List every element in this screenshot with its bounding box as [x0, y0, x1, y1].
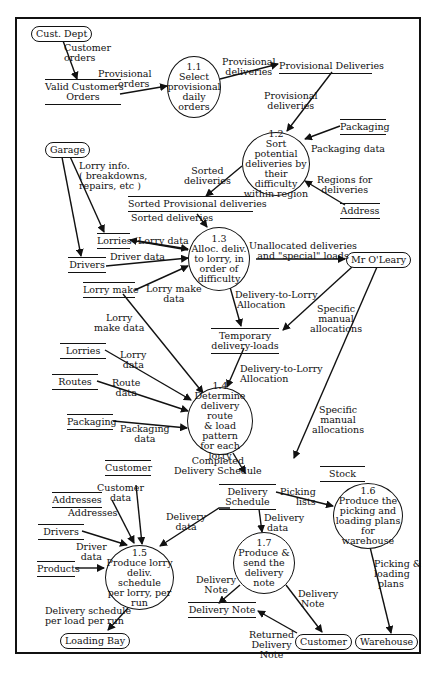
store-lorries-2[interactable]: Lorries	[60, 343, 106, 359]
flow-label-driver-data-1: Driver data	[110, 252, 165, 262]
store-delivery-schedule[interactable]: Delivery Schedule	[219, 484, 276, 510]
store-packaging-2[interactable]: Packaging	[67, 414, 113, 430]
flow-label-picking-lists: Pickinglists	[280, 487, 316, 507]
flow-label-provisional-orders: Provisionalorders	[98, 69, 152, 89]
process-label: per lorry, per	[108, 588, 172, 598]
external-garage[interactable]: Garage	[45, 142, 90, 158]
store-provisional-deliveries[interactable]: Provisional Deliveries	[279, 59, 372, 74]
store-packaging-1[interactable]: Packaging	[340, 119, 386, 135]
process-label: 1.5	[132, 548, 147, 558]
process-label: Produce lorry	[106, 558, 172, 568]
store-routes[interactable]: Routes	[52, 374, 98, 390]
flow-label-addresses: Addresses	[68, 508, 117, 518]
process-1-6[interactable]: 1.6 Produce the picking and loading plan…	[333, 483, 403, 549]
process-1-1[interactable]: 1.1 Select provisional daily orders	[167, 56, 221, 118]
store-sorted-provisional-deliveries[interactable]: Sorted Provisional deliveries	[128, 196, 253, 212]
process-label: run	[131, 598, 148, 608]
flow-label-customer-data: Customerdata	[97, 483, 144, 503]
process-1-3[interactable]: 1.3 Alloc. deliv. to lorry, in order of …	[188, 227, 250, 291]
flow-label-packaging-data: Packaging data	[311, 144, 385, 154]
flow-label-lorry-make-data-2: Lorrymake data	[94, 313, 144, 333]
store-label: Orders	[45, 92, 121, 102]
process-label: & load pattern	[188, 421, 252, 441]
flow-label-lorry-data-2: Lorrydata	[120, 350, 146, 370]
flow-label-delivery-note-1: DeliveryNote	[196, 575, 236, 595]
store-label: Schedule	[219, 497, 276, 507]
external-loading-bay[interactable]: Loading Bay	[60, 633, 130, 649]
process-1-4[interactable]: 1.4 Determine delivery route & load patt…	[187, 387, 253, 455]
flow-label-driver-data-2: Driverdata	[76, 542, 107, 562]
store-address[interactable]: Address	[340, 203, 380, 219]
store-drivers-2[interactable]: Drivers	[38, 524, 84, 540]
flow-label-picking-loading-plans: Picking &loadingplans	[374, 559, 421, 589]
flow-label-delivery-to-lorry-2: Delivery-to-LorryAllocation	[240, 364, 323, 384]
store-addresses[interactable]: Addresses	[52, 492, 102, 508]
process-label: their difficulty	[243, 169, 309, 189]
external-warehouse[interactable]: Warehouse	[355, 634, 418, 650]
store-lorries-1[interactable]: Lorries	[97, 233, 130, 249]
flow-label-delivery-data-2: Deliverydata	[264, 513, 304, 533]
flow-label-route-data: Routedata	[112, 378, 140, 398]
flow-label-sorted-deliveries-out: Sorteddeliveries	[184, 166, 231, 186]
store-drivers-1[interactable]: Drivers	[68, 257, 106, 273]
external-cust-dept[interactable]: Cust. Dept	[31, 26, 92, 42]
store-label: delivery-loads	[211, 341, 279, 351]
process-1-7[interactable]: 1.7 Produce & send the delivery note	[233, 532, 295, 594]
flow-label-sorted-deliveries-in: Sorted deliveries	[131, 213, 213, 223]
store-lorry-make[interactable]: Lorry make	[83, 282, 135, 298]
flow-label-delivery-note-2: DeliveryNote	[298, 589, 338, 609]
process-label: deliv. schedule	[106, 568, 173, 588]
store-stock[interactable]: Stock	[320, 466, 365, 482]
flow-label-provisional-deliveries-in: Provisionaldeliveries	[264, 91, 318, 111]
flow-label-specific-manual-2: Specificmanualallocations	[312, 405, 364, 435]
external-customer[interactable]: Customer	[295, 634, 352, 650]
flow-label-delivery-data-1: Deliverydata	[166, 512, 206, 532]
store-delivery-note[interactable]: Delivery Note	[188, 602, 256, 618]
flow-label-lorry-info: Lorry info.( breakdowns,repairs, etc )	[79, 161, 147, 191]
flow-label-provisional-deliveries-out: Provisionaldeliveries	[222, 57, 276, 77]
flow-label-lorry-data-1: Lorry data	[138, 236, 189, 246]
flow-label-delivery-schedule-per-load: Delivery scheduleper load per run	[45, 606, 131, 626]
flow-label-lorry-make-data-1: Lorry makedata	[146, 284, 202, 304]
store-temporary-delivery-loads[interactable]: Temporary delivery-loads	[211, 328, 279, 354]
process-label: difficulty	[198, 274, 241, 284]
process-1-5[interactable]: 1.5 Produce lorry deliv. schedule per lo…	[105, 545, 174, 610]
process-label: note	[253, 578, 274, 588]
store-products[interactable]: Products	[37, 561, 75, 577]
process-label: delivery route	[188, 401, 252, 421]
process-label: daily orders	[168, 92, 220, 112]
flow-label-packaging-data-2: Packagingdata	[120, 424, 170, 444]
flow-label-customer-orders: Customerorders	[64, 43, 111, 63]
process-label: for warehouse	[334, 526, 402, 546]
flow-label-regions-for-deliveries: Regions fordeliveries	[317, 175, 372, 195]
flow-label-returned-delivery-note: ReturnedDeliveryNote	[249, 630, 294, 660]
flow-label-specific-manual-1: Specificmanualallocations	[310, 304, 362, 334]
flow-label-unallocated: Unallocated deliveriesand "special" load…	[249, 241, 357, 261]
store-customer[interactable]: Customer	[105, 460, 151, 476]
process-label: Sort potential	[243, 139, 309, 159]
flow-label-delivery-to-lorry-1: Delivery-to-LorryAllocation	[235, 290, 318, 310]
process-1-2[interactable]: 1.2 Sort potential deliveries by their d…	[242, 132, 310, 196]
flow-label-completed-schedule: CompletedDelivery Schedule	[174, 456, 262, 476]
